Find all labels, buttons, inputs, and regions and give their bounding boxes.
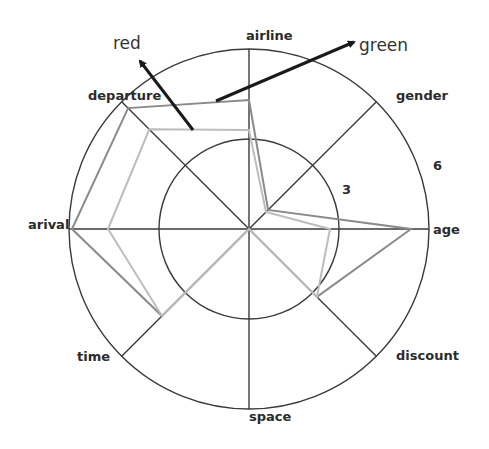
axis-label-time: time xyxy=(77,349,110,364)
axis-label-space: space xyxy=(249,409,292,424)
axis-label-airline: airline xyxy=(246,28,293,43)
axis-label-gender: gender xyxy=(396,88,449,103)
tick-label-6: 6 xyxy=(433,158,442,173)
series-annotations: red green xyxy=(113,33,408,130)
annotation-red: red xyxy=(113,33,141,53)
axis-label-discount: discount xyxy=(396,348,459,363)
axis-label-age: age xyxy=(433,222,460,237)
series-red xyxy=(72,100,411,316)
series-green xyxy=(108,129,330,316)
annotation-green: green xyxy=(359,35,408,55)
tick-label-3: 3 xyxy=(342,182,351,197)
data-series xyxy=(72,100,411,316)
radial-tick-labels: 3 6 xyxy=(342,158,442,197)
axis-label-arival: arival xyxy=(28,217,69,232)
axis-label-departure: departure xyxy=(88,88,161,103)
radar-chart: airline gender age discount space time a… xyxy=(0,0,489,449)
green-arrow-icon xyxy=(216,42,354,101)
